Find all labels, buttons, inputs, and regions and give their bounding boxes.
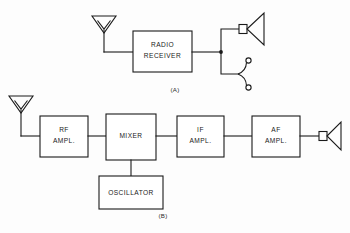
block-af-ampl-line2: AMPL. [265,137,287,144]
block-mixer-label: MIXER [119,132,142,139]
block-if-ampl-line1: IF [197,126,204,133]
block-radio-receiver-line1: RADIO [151,41,174,48]
block-oscillator-label: OSCILLATOR [108,189,154,196]
block-rf-ampl-line1: RF [59,126,69,133]
block-diagram-svg: RADIO RECEIVER (A) [0,0,350,233]
block-af-ampl-line1: AF [271,126,280,133]
block-radio-receiver-line2: RECEIVER [144,52,181,59]
block-radio-receiver: RADIO RECEIVER [133,31,192,72]
block-if-ampl-line2: AMPL. [189,137,211,144]
wire-to-headphone-jack-a [221,52,238,74]
block-mixer: MIXER [106,114,156,160]
wire-to-loudspeaker-a [221,29,239,52]
block-af-ampl: AF AMPL. [252,116,300,157]
diagram-b: RF AMPL. MIXER IF AMPL. AF AMPL. [9,96,341,219]
block-rf-ampl-line2: AMPL. [53,137,75,144]
caption-b: (B) [158,212,167,219]
loudspeaker-icon-a [239,13,264,45]
figure-root: RADIO RECEIVER (A) [0,0,350,233]
block-if-ampl: IF AMPL. [177,116,224,157]
antenna-icon-a [92,16,116,52]
caption-a: (A) [170,86,179,93]
loudspeaker-icon-b [319,122,341,150]
diagram-a: RADIO RECEIVER (A) [92,13,264,93]
headphone-jack-icon-a [238,58,251,90]
antenna-icon-b [9,96,33,136]
block-oscillator: OSCILLATOR [99,176,163,209]
block-rf-ampl: RF AMPL. [40,116,88,157]
